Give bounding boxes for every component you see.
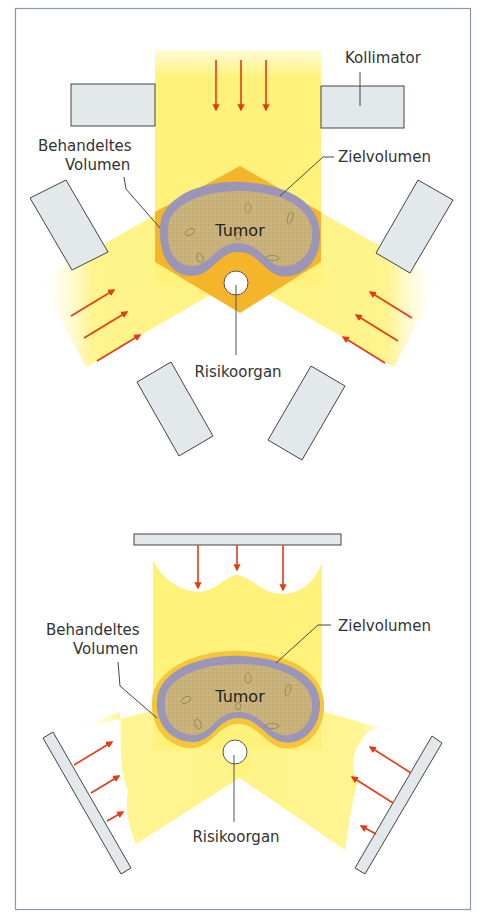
organ-at-risk-circle xyxy=(223,740,247,764)
target-volume-label: Zielvolumen xyxy=(338,617,431,635)
treated-volume-label-line2: Volumen xyxy=(65,156,130,174)
target-volume-label: Zielvolumen xyxy=(338,148,431,166)
tumor-label: Tumor xyxy=(214,687,265,706)
treated-volume-label-line2: Volumen xyxy=(73,640,138,658)
treated-volume-label-line1: Behandeltes xyxy=(38,137,132,155)
collimator-label: Kollimator xyxy=(345,49,422,67)
tumor-label: Tumor xyxy=(214,221,265,240)
collimator-bar-top xyxy=(134,534,341,545)
radiotherapy-beam-diagram: Tumor Risikoorgan Kollimator xyxy=(0,0,483,923)
organ-at-risk-label: Risikoorgan xyxy=(194,363,281,381)
collimator-block-top-right xyxy=(321,86,404,128)
treated-volume-label-line1: Behandeltes xyxy=(46,621,140,639)
organ-at-risk-label: Risikoorgan xyxy=(192,828,279,846)
collimator-block-top-left xyxy=(71,84,155,126)
